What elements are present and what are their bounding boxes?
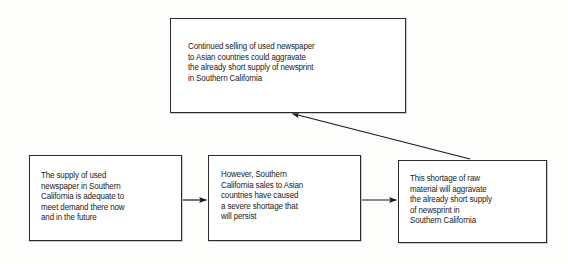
premise-box-2: However, Southern California sales to As…: [208, 155, 361, 241]
conclusion-box-text: Continued selling of used newspaper to A…: [188, 41, 315, 83]
diagram-canvas: Continued selling of used newspaper to A…: [0, 0, 568, 264]
premise-box-3-text: This shortage of raw material will aggra…: [410, 173, 492, 226]
premise-box-3: This shortage of raw material will aggra…: [398, 160, 547, 243]
premise-box-1: The supply of used newspaper in Southern…: [29, 155, 182, 241]
conclusion-box: Continued selling of used newspaper to A…: [170, 18, 406, 113]
premise-box-1-text: The supply of used newspaper in Southern…: [41, 170, 124, 223]
arrow-premise3-to-conclusion: [292, 114, 470, 160]
premise-box-2-text: However, Southern California sales to As…: [221, 169, 303, 222]
